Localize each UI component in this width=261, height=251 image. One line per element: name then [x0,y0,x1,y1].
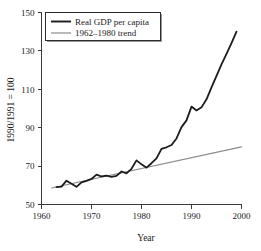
series-group [52,32,242,188]
chart-svg: 507090110130150 19601970198019902000 199… [0,0,261,251]
y-tick-label: 110 [21,85,35,95]
y-axis-title-group: 1990/1991 = 100 [6,77,16,142]
x-tick-label: 2000 [233,211,252,221]
legend-label-real-gdp-per-capita: Real GDP per capita [75,17,149,27]
x-tick-label: 1960 [33,211,52,221]
x-tick-label: 1980 [133,211,152,221]
legend-label-trend: 1962–1980 trend [75,28,137,38]
x-tick-label: 1990 [183,211,202,221]
y-tick-label: 90 [26,123,36,133]
chart-figure: 507090110130150 19601970198019902000 199… [0,0,261,251]
y-tick-label: 70 [26,161,36,171]
y-axis-title: 1990/1991 = 100 [6,77,16,142]
y-tick-label: 130 [21,46,35,56]
x-axis-ticks: 19601970198019902000 [33,205,252,221]
y-tick-label: 50 [26,200,36,210]
x-tick-label: 1970 [83,211,102,221]
y-tick-label: 150 [21,8,35,18]
series-line-real-gdp-per-capita [57,32,237,188]
chart-legend: Real GDP per capita 1962–1980 trend [45,12,162,42]
y-axis-ticks: 507090110130150 [21,8,42,210]
x-axis-title: Year [137,233,155,243]
